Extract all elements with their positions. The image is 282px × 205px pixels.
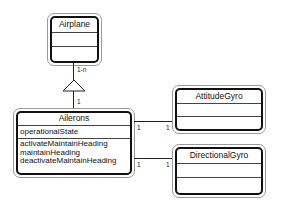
ailerons-class-name: Ailerons — [18, 113, 130, 126]
aggregation-triangle-icon — [62, 79, 86, 92]
ailerons-attitude-multiplicity-label: 1 — [137, 124, 141, 131]
directional-gyro-multiplicity-label: 1 — [166, 161, 170, 168]
ailerons-attributes: operationalState — [18, 126, 130, 139]
attitude-gyro-operations — [177, 117, 261, 129]
attitude-gyro-class-name: AttitudeGyro — [177, 90, 261, 104]
airplane-attributes — [52, 33, 97, 47]
ailerons-attribute: operationalState — [20, 126, 130, 138]
association-line-attitude-gyro — [134, 121, 176, 122]
directional-gyro-attributes — [177, 164, 261, 178]
ailerons-multiplicity-label: 1 — [77, 98, 81, 105]
directional-gyro-operations — [177, 178, 261, 193]
airplane-multiplicity-label: 1-n — [77, 66, 86, 73]
airplane-operations — [52, 47, 97, 61]
attitude-gyro-class[interactable]: AttitudeGyro — [175, 88, 263, 131]
ailerons-directional-multiplicity-label: 1 — [137, 161, 141, 168]
association-line-directional-gyro — [134, 158, 176, 159]
airplane-class[interactable]: Airplane — [50, 16, 99, 63]
directional-gyro-class-name: DirectionalGyro — [177, 149, 261, 164]
attitude-gyro-attributes — [177, 104, 261, 117]
ailerons-operation: deactivateMaintainHeading — [20, 157, 130, 166]
directional-gyro-class[interactable]: DirectionalGyro — [175, 147, 263, 195]
ailerons-class[interactable]: Ailerons operationalState activateMainta… — [16, 111, 132, 175]
airplane-class-name: Airplane — [52, 18, 97, 33]
attitude-gyro-multiplicity-label: 1 — [166, 124, 170, 131]
ailerons-operations: activateMaintainHeading maintainHeading … — [18, 139, 130, 173]
